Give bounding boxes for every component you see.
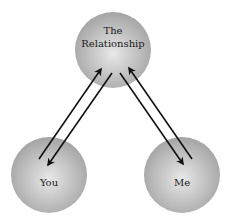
node-me-circle — [144, 137, 220, 213]
node-you: You — [11, 137, 87, 213]
arrow-relationship-to-you — [48, 73, 112, 165]
node-me: Me — [144, 137, 220, 213]
node-you-circle — [11, 137, 87, 213]
arrow-relationship-to-me — [120, 73, 183, 164]
node-relationship: The Relationship — [75, 12, 151, 88]
node-me-label: Me — [174, 177, 190, 188]
node-you-label: You — [39, 177, 59, 188]
node-relationship-label-line1: The — [103, 25, 122, 36]
relationship-diagram: The Relationship You Me — [0, 0, 229, 220]
node-relationship-label-line2: Relationship — [81, 38, 144, 49]
node-relationship-circle — [75, 12, 151, 88]
